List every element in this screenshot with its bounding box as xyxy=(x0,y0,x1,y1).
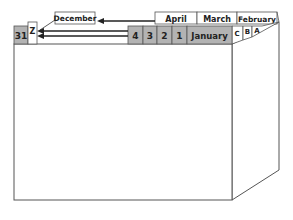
tab-3-label: 3 xyxy=(147,31,153,41)
tab-april-label: April xyxy=(165,15,187,24)
tab-march-label: March xyxy=(203,15,231,24)
arrow-head-icon xyxy=(37,28,44,34)
tab-2-label: 2 xyxy=(161,31,167,41)
tab-february-label: February xyxy=(238,15,276,24)
tab-january-label: January xyxy=(190,31,228,41)
box-front-face xyxy=(14,44,232,200)
arrow-head-icon xyxy=(97,18,104,24)
tab-b-label: B xyxy=(245,28,250,36)
december-leader-line xyxy=(40,20,55,30)
tab-z-label: Z xyxy=(30,27,36,36)
tab-1-label: 1 xyxy=(176,31,182,41)
tab-4-label: 4 xyxy=(132,31,138,41)
december-label: December xyxy=(54,14,97,23)
month-tabs-back: April March February xyxy=(155,12,277,24)
box-side-face xyxy=(232,22,279,200)
card-file-diagram: April March February C B A 31 Z 4 3 2 1 … xyxy=(0,0,293,220)
tab-31-label: 31 xyxy=(15,31,28,41)
tab-c-label: C xyxy=(234,30,239,38)
tab-a-label: A xyxy=(254,27,260,35)
arrow-head-icon xyxy=(37,33,44,39)
